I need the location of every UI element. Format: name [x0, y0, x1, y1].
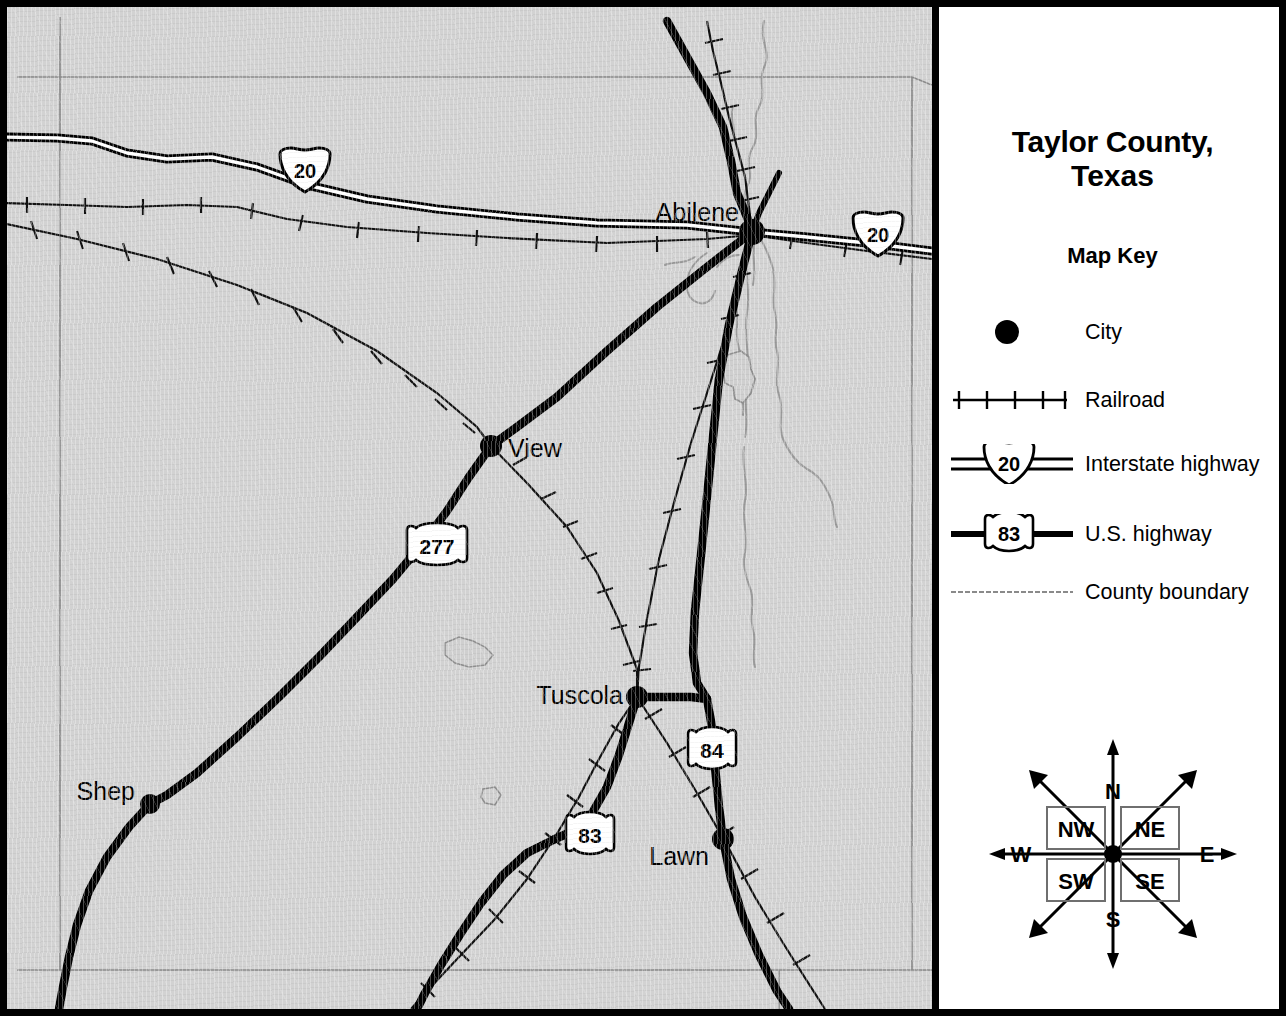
map-title-line1: Taylor County,	[939, 125, 1286, 159]
legend-label-interstate: Interstate highway	[1085, 452, 1260, 477]
compass-label-west: W	[1011, 842, 1032, 867]
compass-label-northeast: NE	[1135, 817, 1166, 842]
compass-label-south: S	[1106, 907, 1121, 932]
city-dot-shep	[140, 794, 160, 814]
shield-number-20: 20	[294, 160, 316, 182]
us-highway-shield-icon: 83	[949, 514, 1079, 554]
map-figure: 20 20 277 83 84 Ab	[0, 0, 1286, 1016]
city-dot-lawn	[712, 828, 734, 850]
legend-shield-number-83: 83	[998, 523, 1020, 545]
city-label-shep: Shep	[77, 777, 135, 805]
legend-label-county-boundary: County boundary	[1085, 580, 1249, 605]
compass-label-southwest: SW	[1058, 869, 1094, 894]
interstate-shield-icon: 20	[949, 444, 1079, 484]
legend-row-interstate: 20 Interstate highway	[939, 444, 1286, 484]
legend-panel: Taylor County, Texas Map Key City	[939, 7, 1286, 1009]
legend-label-city: City	[1085, 320, 1122, 345]
legend-shield-number-20: 20	[998, 453, 1020, 475]
city-label-lawn: Lawn	[649, 842, 709, 870]
compass-center	[1104, 845, 1122, 863]
county-boundary-icon	[949, 572, 1079, 612]
map-shield-us-83: 83	[566, 812, 614, 854]
map-title-line2: Texas	[939, 159, 1286, 193]
city-dot-abilene	[739, 219, 765, 245]
legend-row-county-boundary: County boundary	[939, 572, 1286, 612]
compass-label-north: N	[1105, 779, 1121, 804]
compass-label-northwest: NW	[1058, 817, 1095, 842]
shield-number-83: 83	[578, 824, 601, 847]
shield-number-20-east: 20	[867, 224, 889, 246]
city-dot-icon	[949, 312, 1079, 352]
panel-divider	[932, 7, 939, 1009]
compass-rose: N S E W NW NE SW SE	[979, 729, 1247, 979]
city-label-tuscola: Tuscola	[536, 681, 623, 709]
compass-label-east: E	[1200, 842, 1215, 867]
legend-row-city: City	[939, 312, 1286, 352]
map-shield-us-84: 84	[688, 727, 736, 769]
map-key-heading: Map Key	[939, 243, 1286, 269]
map-graphics: 20 20 277 83 84 Ab	[7, 7, 932, 1009]
map-shield-us-277: 277	[407, 523, 467, 565]
compass-label-southeast: SE	[1135, 869, 1164, 894]
legend-row-railroad: Railroad	[939, 380, 1286, 420]
city-label-abilene: Abilene	[656, 198, 739, 226]
city-dot-view	[480, 435, 502, 457]
city-label-view: View	[508, 434, 563, 462]
legend-row-us-highway: 83 U.S. highway	[939, 514, 1286, 554]
map-panel: 20 20 277 83 84 Ab	[7, 7, 932, 1009]
shield-number-277: 277	[419, 535, 454, 558]
legend-label-us-highway: U.S. highway	[1085, 522, 1212, 547]
city-dot-tuscola	[626, 686, 648, 708]
railroad-icon	[949, 380, 1079, 420]
shield-number-84: 84	[700, 739, 724, 762]
legend-label-railroad: Railroad	[1085, 388, 1165, 413]
